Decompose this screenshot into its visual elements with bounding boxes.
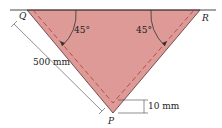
length-label: 500 mm: [33, 58, 70, 67]
angle-label-right: 45°: [136, 26, 152, 35]
label-Q: Q: [19, 12, 26, 21]
depth-label: 10 mm: [148, 102, 179, 111]
angle-label-left: 45°: [74, 26, 90, 35]
label-P: P: [108, 117, 114, 126]
label-R: R: [202, 14, 209, 23]
